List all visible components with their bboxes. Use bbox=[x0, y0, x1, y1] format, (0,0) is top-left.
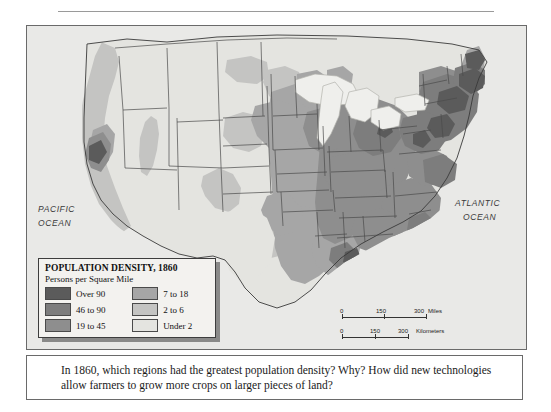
caption-box: In 1860, which regions had the greatest … bbox=[26, 355, 523, 400]
legend-item-7-to-18: 7 to 18 bbox=[132, 287, 209, 300]
scale-miles-tick-300: 300 bbox=[414, 308, 424, 314]
legend-subtitle: Persons per Square Mile bbox=[39, 274, 215, 287]
ocean-label-atlantic-line1: ATLANTIC bbox=[455, 198, 500, 208]
legend-swatch-under-2 bbox=[132, 319, 158, 332]
caption-text: In 1860, which regions had the greatest … bbox=[61, 363, 494, 393]
scale-miles-tickmark-0 bbox=[342, 314, 343, 319]
legend-item-46-to-90: 46 to 90 bbox=[45, 303, 122, 316]
legend-swatch-19-to-45 bbox=[45, 319, 71, 332]
ocean-label-pacific-line2: OCEAN bbox=[38, 218, 71, 228]
scale-miles-unit: Miles bbox=[428, 308, 442, 314]
ocean-label-pacific-line1: PACIFIC bbox=[38, 204, 75, 214]
legend-swatch-grid: Over 90 46 to 90 19 to 45 7 to 18 bbox=[39, 287, 215, 337]
scale-bar-km-labels: 0 150 300 Kilometers bbox=[340, 328, 448, 336]
scale-km-tickmark-2 bbox=[408, 334, 409, 339]
legend-column-right: 7 to 18 2 to 6 Under 2 bbox=[132, 287, 209, 332]
scale-km-unit: Kilometers bbox=[416, 328, 444, 334]
legend-label-under-2: Under 2 bbox=[163, 321, 192, 331]
legend-item-under-2: Under 2 bbox=[132, 319, 209, 332]
scale-bar-miles: 0 150 300 Miles bbox=[340, 308, 448, 328]
legend-swatch-over-90 bbox=[45, 287, 71, 300]
legend-swatch-7-to-18 bbox=[132, 287, 158, 300]
legend-label-19-to-45: 19 to 45 bbox=[76, 321, 106, 331]
legend-label-2-to-6: 2 to 6 bbox=[163, 305, 184, 315]
legend-title: POPULATION DENSITY, 1860 bbox=[39, 259, 215, 274]
scale-km-tick-300: 300 bbox=[398, 328, 408, 334]
legend-item-2-to-6: 2 to 6 bbox=[132, 303, 209, 316]
legend-label-over-90: Over 90 bbox=[76, 289, 105, 299]
scale-miles-tickmark-2 bbox=[426, 314, 427, 319]
map-frame: PACIFIC OCEAN ATLANTIC OCEAN POPULATION … bbox=[26, 25, 527, 350]
scale-bar-miles-labels: 0 150 300 Miles bbox=[340, 308, 448, 316]
map-scale-bar: 0 150 300 Miles 0 150 300 Kilometers bbox=[340, 308, 448, 348]
ocean-label-atlantic-line2: OCEAN bbox=[463, 212, 496, 222]
map-page: PACIFIC OCEAN ATLANTIC OCEAN POPULATION … bbox=[0, 0, 551, 412]
map-legend: POPULATION DENSITY, 1860 Persons per Squ… bbox=[38, 258, 216, 338]
scale-km-tickmark-1 bbox=[375, 334, 376, 339]
legend-label-46-to-90: 46 to 90 bbox=[76, 305, 106, 315]
scale-km-tickmark-0 bbox=[342, 334, 343, 339]
legend-column-left: Over 90 46 to 90 19 to 45 bbox=[45, 287, 122, 332]
scale-bar-kilometers: 0 150 300 Kilometers bbox=[340, 328, 448, 348]
legend-swatch-2-to-6 bbox=[132, 303, 158, 316]
legend-swatch-46-to-90 bbox=[45, 303, 71, 316]
legend-label-7-to-18: 7 to 18 bbox=[163, 289, 188, 299]
top-divider-rule bbox=[58, 11, 494, 12]
scale-miles-tickmark-1 bbox=[384, 314, 385, 319]
legend-item-19-to-45: 19 to 45 bbox=[45, 319, 122, 332]
legend-item-over-90: Over 90 bbox=[45, 287, 122, 300]
